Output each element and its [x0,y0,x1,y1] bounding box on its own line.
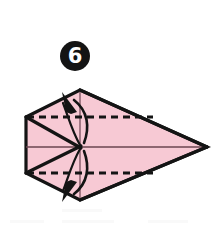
origami-figure [0,0,222,228]
scan-artifact-bottom-left [10,220,44,223]
scan-artifact-top [62,209,102,212]
scan-artifact-bottom-mid [62,220,114,223]
scan-artifact-bottom-right [148,220,188,223]
origami-diagram-page: 6 [0,0,222,228]
